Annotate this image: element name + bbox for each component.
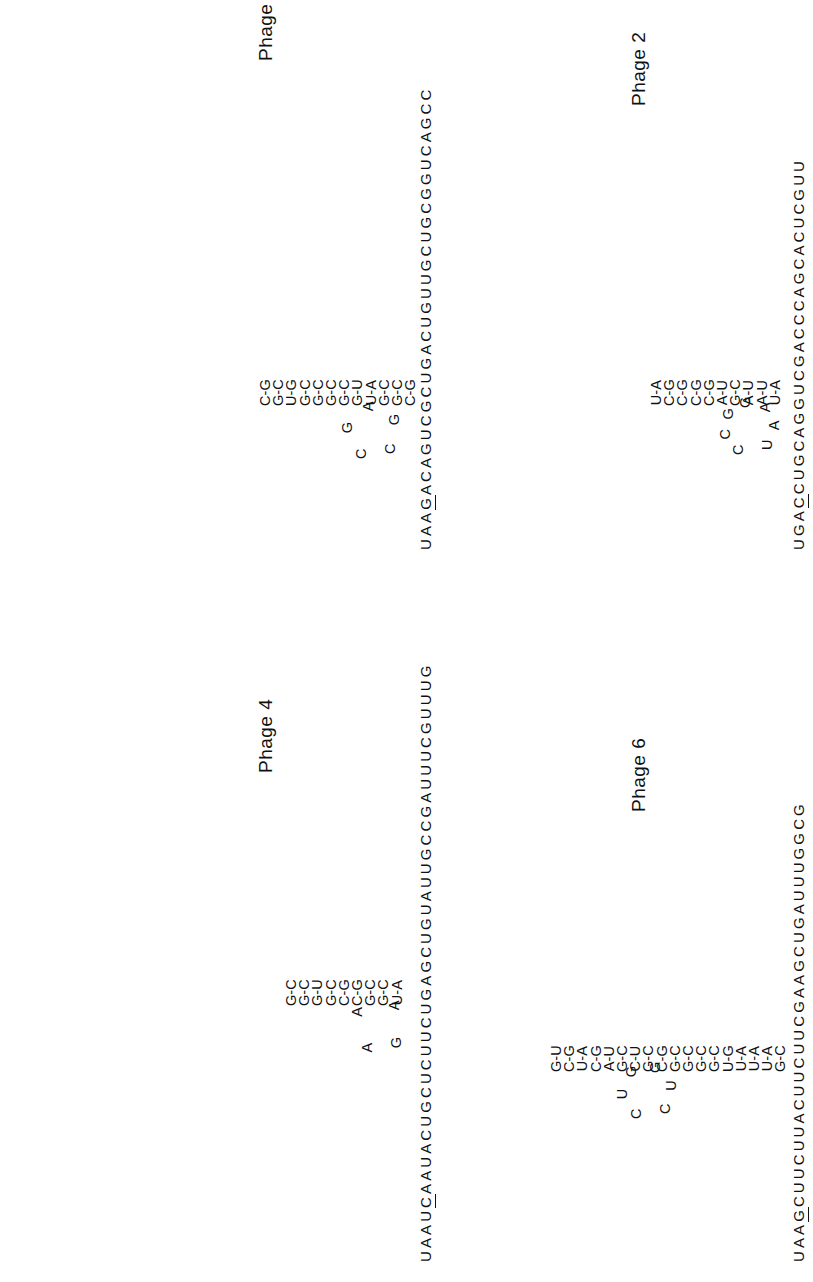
residue: A: [790, 985, 807, 998]
residue: C: [790, 256, 807, 270]
base-right: G: [402, 379, 418, 390]
residue: A: [790, 339, 807, 352]
loop-residue: G: [387, 414, 401, 425]
residue: A: [417, 129, 434, 142]
residue: C: [790, 494, 809, 508]
structure-surface-phage-4: Phage 4 UAAUCAAUACUGCUCUUCUGAGCUGUAUUGCC…: [247, 708, 457, 1268]
residue: C: [417, 242, 434, 256]
panel-phage-6: Phage 6 UAAGCUUCUUACUUCUUCGAAGCUGAUUUGGC…: [620, 1268, 813, 1282]
backbone-sequence-1: UAAGACAGUCGCUGACUGUUGCUGCGGUCAGCC: [417, 87, 436, 550]
residue: G: [417, 440, 434, 455]
residue: A: [417, 510, 434, 523]
residue: U: [417, 1042, 434, 1056]
residue: G: [417, 1098, 434, 1113]
residue: U: [790, 887, 807, 901]
base-left: G: [772, 1061, 788, 1072]
residue: U: [417, 156, 434, 170]
residue: C: [417, 87, 434, 101]
residue: G: [790, 352, 807, 367]
residue: A: [417, 482, 434, 495]
residue: U: [417, 776, 434, 790]
residue: U: [417, 1154, 434, 1168]
residue: A: [417, 523, 434, 536]
residue: A: [790, 508, 807, 521]
hairpin-loop-2: CCGGAAU: [712, 390, 786, 464]
loop-residue: C: [658, 1103, 672, 1113]
residue: U: [790, 381, 807, 395]
phage-label-1: Phage 1: [255, 0, 277, 61]
structure-surface-phage-2: Phage 2 UGACCUGCAGGUCGACCCAGCACUCGUU U-A…: [620, 0, 813, 556]
residue: C: [417, 1056, 434, 1070]
residue: C: [790, 1096, 807, 1110]
loop-residue: G: [648, 1062, 662, 1073]
loop-residue: A: [350, 1007, 364, 1017]
residue: U: [417, 1113, 434, 1127]
residue: U: [790, 1082, 807, 1096]
residue: C: [417, 818, 434, 832]
pair-bond: -: [774, 1056, 787, 1061]
loop-residue: G: [721, 408, 735, 419]
residue: A: [417, 888, 434, 901]
structure-surface-phage-1: Phage 1 UAAGACAGUCGCUGACUGUUGCUGCGGUCAGC…: [247, 0, 457, 556]
residue: U: [417, 314, 434, 328]
residue: C: [790, 1193, 807, 1207]
residue: U: [417, 426, 434, 440]
residue: G: [790, 452, 807, 467]
residue: U: [417, 748, 434, 762]
residue: U: [790, 859, 807, 873]
residue: U: [790, 929, 807, 943]
residue: A: [417, 1181, 434, 1194]
hairpin-loop-6: CUGGUC: [610, 1054, 684, 1128]
residue: A: [790, 901, 807, 914]
residue: U: [417, 691, 434, 705]
residue: U: [417, 874, 434, 888]
residue: U: [790, 1027, 807, 1041]
loop-residue: U: [664, 1080, 678, 1090]
residue: G: [417, 256, 434, 271]
residue: G: [417, 803, 434, 818]
phage-label-6: Phage 6: [628, 738, 650, 812]
base-pair: G-C: [774, 1045, 787, 1072]
loop-residue: G: [389, 1037, 403, 1048]
phage-label-2: Phage 2: [628, 32, 650, 106]
loop-residue: A: [387, 1001, 401, 1011]
residue: U: [417, 762, 434, 776]
residue: A: [790, 425, 807, 438]
residue: U: [417, 901, 434, 915]
residue: A: [790, 284, 807, 297]
residue: U: [790, 172, 807, 186]
loop-residue: G: [624, 1066, 638, 1077]
residue: C: [790, 325, 807, 339]
residue: C: [790, 367, 807, 381]
residue: C: [417, 1084, 434, 1098]
residue: U: [417, 1000, 434, 1014]
residue: A: [417, 1141, 434, 1154]
residue: C: [417, 1014, 434, 1028]
residue: G: [790, 1207, 809, 1222]
residue: G: [790, 845, 807, 860]
residue: G: [417, 915, 434, 930]
loop-residue: A: [767, 421, 781, 431]
residue: C: [417, 101, 434, 115]
base-right: C: [772, 1045, 788, 1055]
residue: C: [417, 384, 434, 398]
residue: A: [417, 342, 434, 355]
loop-residue: A: [758, 403, 772, 413]
residue: A: [790, 972, 807, 985]
residue: G: [417, 495, 436, 510]
residue: U: [790, 1069, 807, 1083]
residue: U: [790, 158, 807, 172]
loop-residue: C: [354, 448, 368, 458]
residue: C: [417, 328, 434, 342]
residue: C: [417, 468, 434, 482]
residue: U: [417, 536, 434, 550]
residue: C: [417, 1194, 436, 1208]
loop-residue: C: [731, 444, 745, 454]
residue: G: [790, 395, 807, 410]
residue: G: [417, 986, 434, 1001]
residue: G: [417, 185, 434, 200]
residue: U: [790, 215, 807, 229]
residue: G: [417, 397, 434, 412]
residue: U: [790, 1248, 807, 1262]
residue: A: [790, 1222, 807, 1235]
